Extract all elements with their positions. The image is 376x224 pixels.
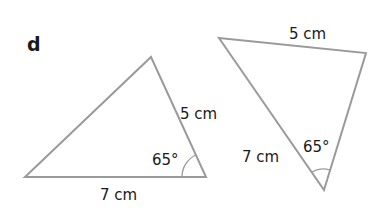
right-side-label-7cm: 7 cm <box>242 148 279 166</box>
left-angle-arc <box>182 155 196 177</box>
left-triangle: 5 cm 65° 7 cm <box>25 57 217 204</box>
left-side-label-7cm: 7 cm <box>100 186 137 204</box>
right-triangle: 5 cm 65° 7 cm <box>219 25 366 190</box>
right-angle-arc <box>312 169 330 172</box>
right-angle-label: 65° <box>303 138 330 156</box>
left-angle-label: 65° <box>152 151 179 169</box>
right-side-label-5cm: 5 cm <box>289 25 326 43</box>
right-triangle-shape <box>219 38 366 190</box>
part-label: d <box>27 33 41 55</box>
triangles-figure: d 5 cm 65° 7 cm 5 cm 65° 7 cm <box>0 0 376 224</box>
diagram-canvas: d 5 cm 65° 7 cm 5 cm 65° 7 cm <box>0 0 376 224</box>
left-side-label-5cm: 5 cm <box>180 105 217 123</box>
left-triangle-shape <box>25 57 206 177</box>
